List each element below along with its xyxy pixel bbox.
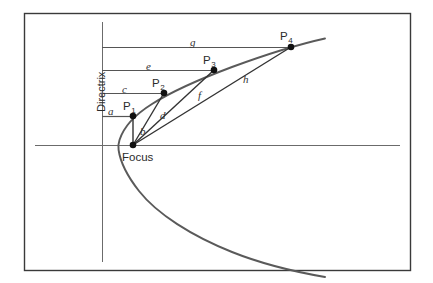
segment-d-label: d <box>160 110 166 121</box>
segment-c-label: c <box>122 84 127 95</box>
focus-label: Focus <box>122 152 153 164</box>
point-p3-label: P3 <box>203 55 215 67</box>
segment-h-label: h <box>243 74 249 85</box>
segment-b-label: b <box>140 126 146 137</box>
point-p2-label: P2 <box>152 78 164 90</box>
segment-e-label: e <box>146 61 151 72</box>
figure-frame <box>25 14 411 271</box>
figure-root: Directrix Focus a b c d e f g h P1 P2 P3… <box>0 0 433 283</box>
parabola-diagram-svg <box>0 0 433 283</box>
point-p4-subscript: 4 <box>288 36 292 45</box>
point-p4-label: P4 <box>280 31 292 43</box>
point-p3-subscript: 3 <box>211 60 215 69</box>
point-p3-letter: P <box>203 54 211 66</box>
point-p1-letter: P <box>123 100 131 112</box>
point-p1-subscript: 1 <box>131 106 135 115</box>
segment-f-label: f <box>198 90 201 101</box>
point-focus-marker <box>130 142 137 149</box>
segment-g-label: g <box>190 37 196 48</box>
point-p1-label: P1 <box>123 101 135 113</box>
point-p2-subscript: 2 <box>160 83 164 92</box>
point-p4-letter: P <box>280 30 288 42</box>
segment-a-label: a <box>108 106 114 117</box>
point-p2-letter: P <box>152 77 160 89</box>
directrix-label: Directrix <box>96 72 107 112</box>
